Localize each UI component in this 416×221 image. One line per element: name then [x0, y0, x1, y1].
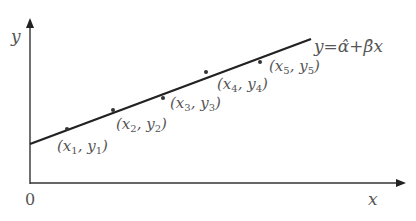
point-label-5: (x5, y5)	[269, 59, 320, 76]
regression-diagram: y x 0 y=α̂+β̂x (x1, y1) (x2, y2) (x3, y3…	[0, 0, 416, 221]
data-point-4	[204, 70, 208, 74]
point-label-3: (x3, y3)	[170, 96, 221, 113]
eq-plus: +	[349, 36, 363, 56]
data-point-1	[65, 127, 69, 131]
eq-equals: =	[324, 36, 338, 56]
eq-alpha-hat: α̂	[338, 36, 349, 56]
x-axis-label: x	[368, 191, 378, 208]
data-point-3	[161, 96, 165, 100]
eq-beta-hat: β̂	[364, 36, 374, 56]
y-axis-label: y	[11, 28, 21, 45]
data-point-5	[258, 60, 262, 64]
point-label-2: (x2, y2)	[116, 117, 167, 134]
eq-x: x	[373, 36, 383, 56]
data-point-2	[111, 108, 115, 112]
regression-equation: y=α̂+β̂x	[314, 38, 383, 55]
point-label-1: (x1, y1)	[57, 139, 108, 156]
point-label-4: (x4, y4)	[217, 77, 268, 94]
regression-line	[30, 39, 311, 144]
eq-y: y	[314, 36, 324, 56]
origin-label: 0	[25, 192, 35, 208]
